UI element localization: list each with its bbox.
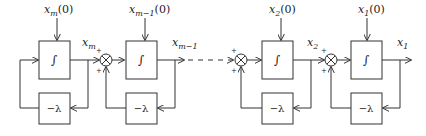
integral-symbol: ∫ <box>138 53 145 67</box>
gain-label: −λ <box>270 103 285 114</box>
output-label-xm: xm <box>82 36 96 51</box>
svg-text:+: + <box>321 67 327 75</box>
output-label-xm-1: xm−1 <box>172 36 198 51</box>
gain-label: −λ <box>134 103 149 114</box>
feedback-tap <box>383 60 400 108</box>
gain-label: −λ <box>359 103 374 114</box>
feedback-tap <box>71 60 88 108</box>
feedback-tap <box>294 60 311 108</box>
svg-text:+: + <box>231 67 237 75</box>
summing-junction-2: + + <box>231 47 261 75</box>
feedback-return <box>241 67 262 108</box>
gain-label: −λ <box>47 103 62 114</box>
initial-condition-xm-1: xm−1(0) <box>129 3 170 18</box>
svg-text:+: + <box>321 47 327 55</box>
svg-text:+: + <box>231 47 237 55</box>
output-label-x2: x2 <box>307 36 318 51</box>
initial-condition-xm: xm(0) <box>44 3 73 18</box>
summing-junction-1: + + <box>96 47 124 75</box>
integral-symbol: ∫ <box>363 53 370 67</box>
stage-m: xm(0) ∫ −λ xm <box>20 3 99 124</box>
integral-symbol: ∫ <box>274 53 281 67</box>
stage-2: x2(0) ∫ −λ x2 <box>241 3 324 124</box>
stage-1: x1(0) ∫ −λ x1 <box>331 3 411 124</box>
summing-junction-3: + + <box>321 47 350 75</box>
integral-symbol: ∫ <box>51 53 58 67</box>
svg-text:+: + <box>96 67 102 75</box>
initial-condition-x2: x2(0) <box>269 3 296 18</box>
feedback-return <box>331 67 351 108</box>
feedback-tap <box>158 60 175 108</box>
feedback-return <box>106 67 126 108</box>
feedback-return <box>20 60 39 108</box>
initial-condition-x1: x1(0) <box>358 3 385 18</box>
stage-m-minus-1: xm−1(0) ∫ −λ xm−1 <box>106 3 198 124</box>
svg-text:+: + <box>96 47 102 55</box>
block-diagram: xm(0) ∫ −λ xm + + xm−1(0) ∫ −λ xm−1 <box>0 0 426 136</box>
output-label-x1: x1 <box>397 36 408 51</box>
